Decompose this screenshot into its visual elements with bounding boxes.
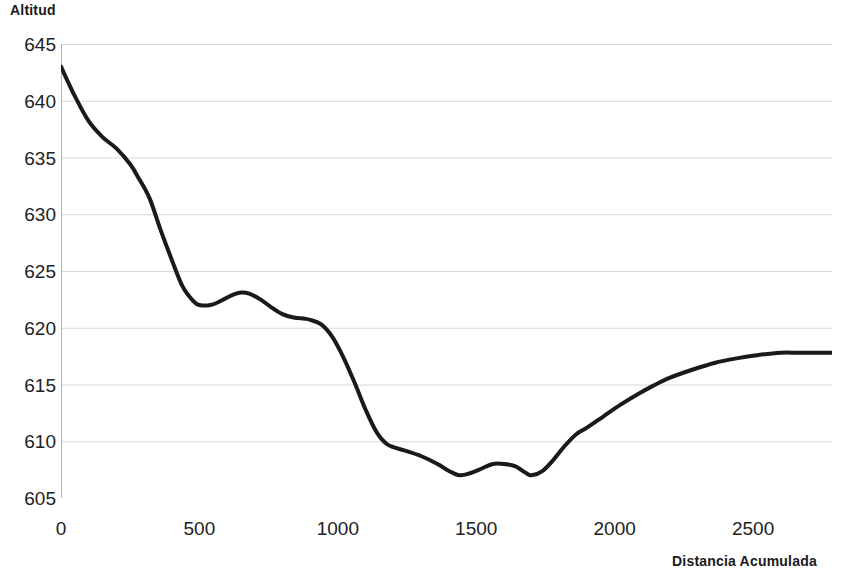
x-tick-label: 0: [56, 519, 67, 538]
x-tick-label: 1000: [317, 519, 359, 538]
plot-area: [61, 44, 832, 498]
x-tick-label: 1500: [455, 519, 497, 538]
x-tick-label: 500: [184, 519, 216, 538]
x-tick-label: 2000: [594, 519, 636, 538]
altitude-profile-chart: Altitud 605610615620625630635640645 0500…: [0, 0, 852, 580]
x-axis-title: Distancia Acumulada: [672, 553, 817, 569]
x-tick-label: 2500: [732, 519, 774, 538]
plot-svg: [61, 44, 832, 498]
